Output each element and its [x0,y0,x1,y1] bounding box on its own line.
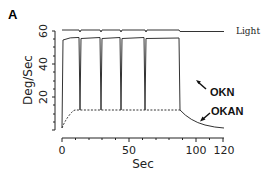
okn-annotation: OKN [196,80,235,98]
y-axis [52,31,55,130]
y-tick-20: 20 [37,90,50,104]
okan-buildup-trace [62,110,180,128]
y-tick-60: 60 [37,24,50,38]
light-label: Light [236,26,260,36]
okan-label: OKAN [211,105,243,117]
x-axis-title: Sec [132,157,154,171]
chart: A 60 40 20 Deg/Sec [0,0,270,177]
x-axis [62,138,224,142]
light-trace [62,30,224,32]
x-tick-100: 100 [186,144,207,157]
x-tick-0: 0 [59,144,66,157]
y-tick-40: 40 [37,57,50,71]
y-axis-title: Deg/Sec [21,55,35,105]
x-tick-120: 120 [214,144,235,157]
okn-label: OKN [210,86,235,98]
okan-annotation: OKAN [200,105,243,122]
y-tick-labels: 60 40 20 [37,24,50,104]
panel-label: A [8,7,18,22]
x-tick-labels: 0 50 100 120 [59,144,235,157]
x-tick-50: 50 [122,144,136,157]
okn-trace [62,37,180,128]
